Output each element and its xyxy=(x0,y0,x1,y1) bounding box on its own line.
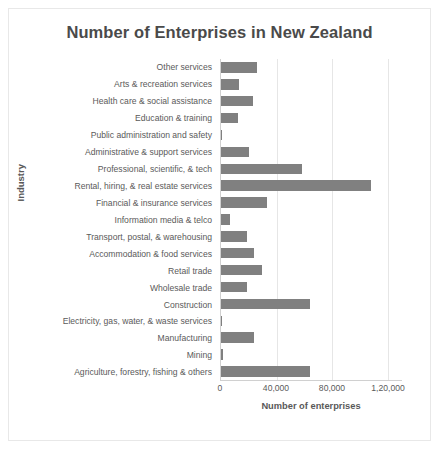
bar-row[interactable] xyxy=(221,279,402,296)
y-axis-tick-label: Agriculture, forestry, fishing & others xyxy=(27,364,217,381)
y-axis-tick-label: Education & training xyxy=(27,110,217,127)
y-axis-tick-label: Construction xyxy=(27,296,217,313)
bar[interactable] xyxy=(221,231,247,241)
bar-row[interactable] xyxy=(221,194,402,211)
bar[interactable] xyxy=(221,316,222,326)
bar-row[interactable] xyxy=(221,160,402,177)
y-axis-tick-label: Health care & social assistance xyxy=(27,93,217,110)
x-axis-tick-labels: 040,00080,0001,20,000 xyxy=(220,383,402,397)
bar[interactable] xyxy=(221,180,371,190)
bar-row[interactable] xyxy=(221,127,402,144)
y-axis-tick-label: Professional, scientific, & tech xyxy=(27,161,217,178)
plot-area xyxy=(220,59,402,381)
bar[interactable] xyxy=(221,164,302,174)
bar-row[interactable] xyxy=(221,177,402,194)
bar[interactable] xyxy=(221,265,262,275)
chart-plot-wrapper: Industry Other servicesArts & recreation… xyxy=(9,9,432,442)
y-axis-tick-label: Electricity, gas, water, & waste service… xyxy=(27,313,217,330)
bar-row[interactable] xyxy=(221,93,402,110)
bar[interactable] xyxy=(221,96,253,106)
y-axis-tick-label: Transport, postal, & warehousing xyxy=(27,229,217,246)
y-axis-tick-label: Manufacturing xyxy=(27,330,217,347)
bar-row[interactable] xyxy=(221,295,402,312)
y-axis-tick-label: Information media & telco xyxy=(27,212,217,229)
y-axis-tick-label: Arts & recreation services xyxy=(27,76,217,93)
y-axis-tick-label: Other services xyxy=(27,59,217,76)
chart-card: Number of Enterprises in New Zealand Ind… xyxy=(8,8,431,441)
x-axis-tick-label: 0 xyxy=(218,383,223,393)
bar-row[interactable] xyxy=(221,110,402,127)
y-axis-tick-label: Accommodation & food services xyxy=(27,245,217,262)
bar[interactable] xyxy=(221,113,238,123)
y-axis-tick-label: Rental, hiring, & real estate services xyxy=(27,178,217,195)
y-axis-tick-label: Administrative & support services xyxy=(27,144,217,161)
y-axis-tick-label: Retail trade xyxy=(27,262,217,279)
bar[interactable] xyxy=(221,147,249,157)
bar-row[interactable] xyxy=(221,76,402,93)
bar[interactable] xyxy=(221,130,222,140)
bar[interactable] xyxy=(221,332,254,342)
bar-row[interactable] xyxy=(221,143,402,160)
x-axis-tick-label: 80,000 xyxy=(319,383,345,393)
bar[interactable] xyxy=(221,62,257,72)
bar[interactable] xyxy=(221,349,223,359)
bar[interactable] xyxy=(221,282,247,292)
bar-row[interactable] xyxy=(221,346,402,363)
bar-row[interactable] xyxy=(221,245,402,262)
bar[interactable] xyxy=(221,366,310,376)
bar-row[interactable] xyxy=(221,363,402,380)
bar[interactable] xyxy=(221,299,310,309)
bar-series xyxy=(221,59,402,380)
y-axis-tick-label: Wholesale trade xyxy=(27,279,217,296)
y-axis-tick-labels: Other servicesArts & recreation services… xyxy=(27,59,217,381)
bar-row[interactable] xyxy=(221,312,402,329)
y-axis-tick-label: Public administration and safety xyxy=(27,127,217,144)
x-axis-tick-label: 1,20,000 xyxy=(371,383,404,393)
bar-row[interactable] xyxy=(221,59,402,76)
bar-row[interactable] xyxy=(221,329,402,346)
bar-row[interactable] xyxy=(221,262,402,279)
bar[interactable] xyxy=(221,214,230,224)
bar[interactable] xyxy=(221,248,254,258)
bar-row[interactable] xyxy=(221,211,402,228)
x-axis-title: Number of enterprises xyxy=(220,401,402,411)
bar-row[interactable] xyxy=(221,228,402,245)
bar[interactable] xyxy=(221,197,267,207)
y-axis-title: Industry xyxy=(15,188,26,202)
y-axis-tick-label: Financial & insurance services xyxy=(27,195,217,212)
y-axis-tick-label: Mining xyxy=(27,347,217,364)
bar[interactable] xyxy=(221,79,239,89)
x-axis-tick-label: 40,000 xyxy=(263,383,289,393)
